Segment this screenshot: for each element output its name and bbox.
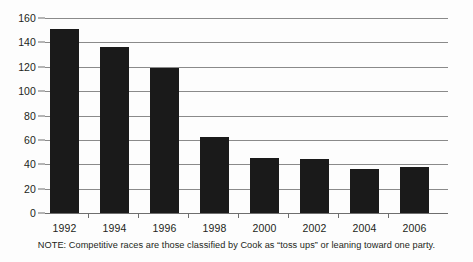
- ytick-label-160: 160: [18, 12, 45, 24]
- xtick-5: [288, 213, 289, 218]
- bar-1994: [100, 47, 129, 213]
- xtick-6: [338, 213, 339, 218]
- bar-2000: [250, 158, 279, 213]
- bar-1998: [200, 137, 229, 213]
- ytick-label-140: 140: [18, 36, 45, 48]
- plot-area: 160 140 120 100 80 60 40 20 0: [45, 18, 448, 213]
- ytick-label-60: 60: [24, 134, 45, 146]
- chart-note: NOTE: Competitive races are those classi…: [0, 240, 473, 250]
- xtick-4: [238, 213, 239, 218]
- xtick-7: [388, 213, 389, 218]
- bar-1996: [150, 68, 179, 213]
- ytick-label-100: 100: [18, 85, 45, 97]
- gridline-140: [45, 42, 448, 43]
- xtick-2: [138, 213, 139, 218]
- x-axis: 1992 1994 1996 1998 2000 2002 2004 2006: [45, 213, 448, 243]
- chart-figure: 160 140 120 100 80 60 40 20 0: [0, 0, 473, 262]
- xtick-1: [88, 213, 89, 218]
- xtick-label-2006: 2006: [385, 222, 445, 234]
- bar-2002: [300, 159, 329, 213]
- ytick-label-40: 40: [24, 158, 45, 170]
- ytick-label-0: 0: [30, 207, 45, 219]
- ytick-label-80: 80: [24, 110, 45, 122]
- xtick-3: [188, 213, 189, 218]
- ytick-label-20: 20: [24, 183, 45, 195]
- bar-1992: [50, 29, 79, 213]
- bar-2004: [350, 169, 379, 213]
- ytick-label-120: 120: [18, 61, 45, 73]
- gridline-160: [45, 18, 448, 19]
- bar-2006: [400, 167, 429, 213]
